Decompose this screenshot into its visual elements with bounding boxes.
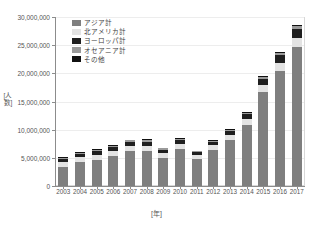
bar-group[interactable] <box>292 25 302 186</box>
x-tick-mark <box>130 186 131 189</box>
bar-segment-north-america <box>292 38 302 47</box>
bar-segment-asia <box>75 162 85 186</box>
bar-segment-asia <box>192 159 202 186</box>
legend-item[interactable]: アジア計 <box>72 19 126 26</box>
x-axis-title-text: [年] <box>151 210 162 217</box>
x-tick-mark <box>147 186 148 189</box>
bar-group[interactable] <box>175 138 185 186</box>
x-tick-label: 2014 <box>240 188 254 195</box>
legend: アジア計北アメリカ計ヨーロッパ計オセアニア計その他 <box>72 19 126 63</box>
x-tick-mark <box>280 186 281 189</box>
x-tick-mark <box>63 186 64 189</box>
bar-segment-north-america <box>275 63 285 71</box>
y-tick-label: 15,000,000 <box>0 98 50 105</box>
y-tick-label: 5,000,000 <box>0 154 50 161</box>
bar-segment-north-america <box>258 85 268 92</box>
bar-group[interactable] <box>225 129 235 186</box>
x-tick-label: 2010 <box>173 188 187 195</box>
legend-swatch-icon <box>72 29 81 35</box>
bar-group[interactable] <box>258 76 268 186</box>
bar-segment-asia <box>292 47 302 186</box>
x-tick-label: 2004 <box>73 188 87 195</box>
x-tick-label: 2008 <box>140 188 154 195</box>
y-tick-label: 25,000,000 <box>0 42 50 49</box>
bar-segment-asia <box>258 92 268 186</box>
bar-group[interactable] <box>58 157 68 186</box>
x-tick-mark <box>180 186 181 189</box>
bar-segment-asia <box>275 71 285 186</box>
bar-segment-asia <box>242 125 252 186</box>
x-tick-mark <box>113 186 114 189</box>
x-axis-ticks: 2003200420052006200720082009201020112012… <box>55 188 305 200</box>
x-tick-mark <box>197 186 198 189</box>
legend-label: 北アメリカ計 <box>84 28 126 35</box>
x-tick-label: 2005 <box>90 188 104 195</box>
y-tick-label: 30,000,000 <box>0 14 50 21</box>
bar-chart: [人数] 05,000,00010,000,00015,000,00020,00… <box>0 0 313 231</box>
legend-label: ヨーロッパ計 <box>84 37 126 44</box>
bar-segment-asia <box>125 151 135 186</box>
legend-swatch-icon <box>72 47 81 53</box>
x-tick-label: 2009 <box>156 188 170 195</box>
bar-group[interactable] <box>125 140 135 186</box>
bar-group[interactable] <box>92 149 102 186</box>
x-tick-mark <box>297 186 298 189</box>
bar-segment-asia <box>142 151 152 186</box>
x-tick-mark <box>213 186 214 189</box>
y-tick-mark <box>52 186 55 187</box>
x-tick-label: 2012 <box>206 188 220 195</box>
bar-group[interactable] <box>158 148 168 186</box>
x-tick-label: 2006 <box>106 188 120 195</box>
bar-group[interactable] <box>275 52 285 186</box>
x-tick-label: 2013 <box>223 188 237 195</box>
bar-segment-europe <box>275 55 285 63</box>
x-tick-label: 2015 <box>256 188 270 195</box>
bar-segment-europe <box>292 29 302 38</box>
y-tick-label: 20,000,000 <box>0 70 50 77</box>
bar-segment-asia <box>92 160 102 186</box>
x-tick-label: 2016 <box>273 188 287 195</box>
bar-segment-asia <box>175 149 185 186</box>
legend-swatch-icon <box>72 38 81 44</box>
legend-item[interactable]: その他 <box>72 56 126 63</box>
bar-segment-asia <box>158 158 168 186</box>
bar-segment-asia <box>208 150 218 186</box>
bar-segment-asia <box>58 167 68 186</box>
x-tick-mark <box>263 186 264 189</box>
legend-label: オセアニア計 <box>84 47 126 54</box>
x-tick-label: 2017 <box>290 188 304 195</box>
y-tick-label: 0 <box>0 183 50 190</box>
x-tick-label: 2007 <box>123 188 137 195</box>
legend-item[interactable]: オセアニア計 <box>72 47 126 54</box>
bar-segment-asia <box>225 140 235 186</box>
legend-item[interactable]: 北アメリカ計 <box>72 28 126 35</box>
bar-segment-asia <box>108 156 118 186</box>
bar-group[interactable] <box>192 151 202 186</box>
bar-group[interactable] <box>75 152 85 186</box>
x-tick-mark <box>247 186 248 189</box>
bar-group[interactable] <box>142 139 152 186</box>
bar-group[interactable] <box>108 145 118 186</box>
legend-label: アジア計 <box>84 19 112 26</box>
legend-swatch-icon <box>72 20 81 26</box>
legend-item[interactable]: ヨーロッパ計 <box>72 37 126 44</box>
bar-group[interactable] <box>242 112 252 186</box>
x-tick-label: 2011 <box>190 188 204 195</box>
y-tick-label: 10,000,000 <box>0 126 50 133</box>
x-tick-mark <box>80 186 81 189</box>
x-axis-title: [年] <box>0 208 313 218</box>
legend-swatch-icon <box>72 56 81 62</box>
x-tick-mark <box>163 186 164 189</box>
x-tick-mark <box>230 186 231 189</box>
x-tick-mark <box>97 186 98 189</box>
x-tick-label: 2003 <box>56 188 70 195</box>
bar-group[interactable] <box>208 140 218 186</box>
legend-label: その他 <box>84 56 105 63</box>
